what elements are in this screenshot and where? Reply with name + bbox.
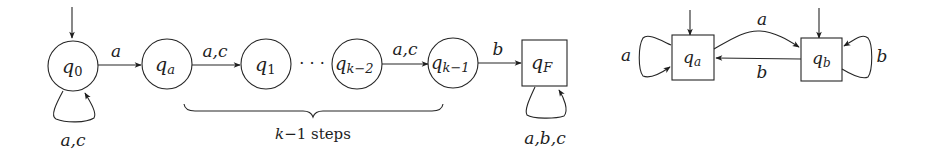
edge-label-qk2-qk1: a,c [392, 39, 418, 59]
state-q1: q1 [241, 39, 291, 89]
edge-label-q0-q0: a,c [60, 130, 86, 150]
edge-qa-qb [714, 31, 799, 49]
brace [184, 104, 443, 117]
state-qa: qa [142, 39, 192, 89]
state-qb: qb [801, 38, 842, 81]
edge-label-qF-qF: a,b,c [524, 128, 566, 148]
state-subscript: k−2 [347, 61, 374, 76]
state-label: q [155, 53, 167, 75]
state-subscript: k−1 [443, 60, 470, 75]
right-automaton: qa a a b qb b [621, 8, 888, 82]
state-label: q [62, 55, 74, 77]
state-subscript: F [542, 60, 553, 75]
edge-label-q0-qa: a [111, 41, 121, 61]
ellipsis: · · · [299, 54, 324, 73]
brace-label: k−1 steps [275, 125, 351, 143]
state-subscript: a [694, 55, 701, 69]
edge-label-qa-qb: a [757, 9, 767, 29]
state-subscript: a [167, 62, 175, 77]
edge-label-qb-qa: b [757, 62, 768, 82]
state-qa-right: qa [672, 35, 714, 80]
edge-label-qa-q1: a,c [202, 41, 228, 61]
state-subscript: b [823, 56, 831, 70]
state-label: q [335, 53, 347, 74]
state-subscript: 0 [74, 64, 82, 79]
edge-qb-qa [716, 58, 801, 59]
state-label: q [531, 51, 543, 73]
self-loop-q0 [54, 91, 95, 122]
self-loop-qa-right [639, 36, 671, 77]
edge-label-qb-qb: b [877, 46, 888, 66]
state-qk-1: qk−1 [428, 38, 478, 88]
state-subscript: 1 [267, 62, 275, 77]
automata-diagram: q0 a,c a qa a,c q1 · · · [0, 0, 927, 159]
state-label: q [431, 52, 443, 73]
edge-label-qk1-qF: b [493, 39, 504, 59]
self-loop-qF [526, 87, 566, 118]
state-qF: qF [522, 40, 567, 86]
state-label: q [812, 48, 823, 68]
state-qk-2: qk−2 [332, 39, 382, 89]
state-label: q [255, 53, 267, 75]
edge-label-qa-qa: a [621, 45, 631, 65]
state-label: q [683, 47, 694, 67]
self-loop-qb [842, 36, 872, 78]
left-automaton: q0 a,c a qa a,c q1 · · · [48, 7, 567, 150]
state-q0: q0 [48, 41, 98, 91]
